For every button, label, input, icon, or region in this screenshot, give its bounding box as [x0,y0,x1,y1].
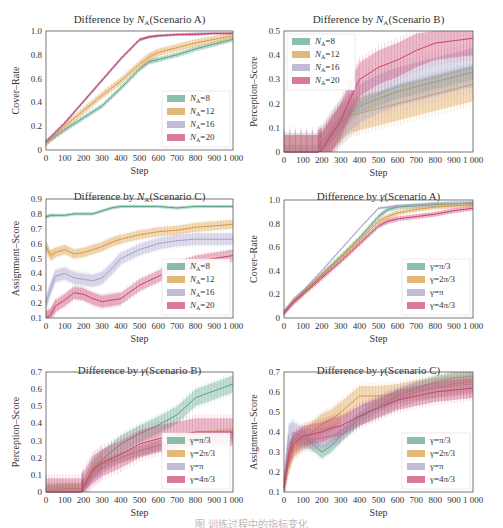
x-tick-label: 400 [353,155,367,165]
x-tick-label: 900 [447,495,461,505]
y-tick-label: 0.6 [269,387,281,397]
legend-swatch [167,302,185,309]
legend-swatch [407,463,425,470]
y-tick-label: 0.5 [269,407,281,417]
x-tick-label: 300 [95,321,109,331]
x-tick-label: 800 [428,321,442,331]
subplot-gamma-scenario-b-svg: Difference by γ(Scenario B)0100200300400… [10,364,244,518]
legend-swatch [167,108,185,115]
legend-swatch [407,276,425,283]
x-tick-label: 700 [410,155,424,165]
y-axis-label: Perception–Score [10,396,21,467]
x-tick-label: 800 [189,495,203,505]
x-tick-label: 200 [77,495,91,505]
x-tick-label: 100 [296,495,310,505]
y-tick-label: 0.2 [269,99,280,109]
legend-label: γ=π/3 [429,435,451,445]
y-tick-label: 0.3 [31,436,43,446]
y-tick-label: 0.2 [31,298,42,308]
x-tick-label: 1 000 [463,321,484,331]
y-tick-label: 0.3 [31,283,43,293]
x-tick-label: 600 [151,321,165,331]
legend-swatch [407,263,425,270]
y-tick-label: 0.4 [269,266,281,276]
legend: γ=π/3γ=2π/3γ=πγ=4π/3 [402,433,470,489]
y-tick-label: 0 [276,313,281,323]
x-tick-label: 300 [334,495,348,505]
legend-swatch [292,77,310,84]
x-axis-label: Step [131,165,149,176]
x-tick-label: 700 [410,495,424,505]
legend-label: NA=16 [189,119,215,130]
legend-label: γ=π [429,287,444,297]
x-tick-label: 1 000 [463,495,484,505]
legend: NA=8NA=12NA=16NA=20 [162,91,230,147]
legend-label: NA=20 [314,75,340,86]
x-tick-label: 100 [58,495,72,505]
legend-swatch [407,302,425,309]
x-tick-label: 400 [353,495,367,505]
y-tick-label: 0.9 [31,194,43,204]
legend-label: γ=π/3 [189,435,211,445]
y-tick-label: 0.1 [269,487,280,497]
x-tick-label: 400 [353,321,367,331]
legend-swatch [167,134,185,141]
chart-title: Difference by γ(Scenario B) [78,364,202,377]
x-tick-label: 1 000 [223,153,244,163]
y-tick-label: 0.6 [31,239,43,249]
legend-label: γ=4π/3 [429,474,456,484]
legend-label: NA=20 [189,132,215,143]
chart-title: Difference by NA(Scenario C) [74,190,206,204]
chart-title: Difference by γ(Scenario C) [317,364,441,377]
chart-title: Difference by γ(Scenario A) [317,190,441,203]
legend-swatch [167,450,185,457]
legend-swatch [407,437,425,444]
x-tick-label: 400 [114,321,128,331]
y-tick-label: 0.1 [31,470,42,480]
y-tick-label: 0.4 [31,97,43,107]
y-tick-label: 0.3 [269,74,281,84]
legend-label: γ=π [429,461,444,471]
x-tick-label: 100 [58,321,72,331]
x-tick-label: 0 [44,495,49,505]
x-tick-label: 600 [391,495,405,505]
y-tick-label: 1.0 [269,195,281,205]
x-tick-label: 100 [296,155,310,165]
legend-label: NA=12 [189,274,214,285]
x-tick-label: 900 [447,321,461,331]
x-tick-label: 1 000 [223,321,244,331]
legend-label: NA=16 [189,287,215,298]
x-axis-label: Step [370,167,388,178]
x-tick-label: 800 [428,155,442,165]
legend-swatch [407,450,425,457]
x-tick-label: 500 [372,495,386,505]
x-tick-label: 500 [133,153,147,163]
y-tick-label: 0.1 [31,313,42,323]
x-tick-label: 700 [170,495,184,505]
legend: NA=8NA=12NA=16NA=20 [162,259,230,315]
legend-swatch [292,51,310,58]
legend-label: NA=12 [189,106,214,117]
y-axis-label: Cover–Rate [248,235,259,283]
legend-swatch [167,276,185,283]
y-tick-label: 0.8 [31,50,43,60]
legend: NA=8NA=12NA=16NA=20 [287,34,355,90]
legend-label: NA=8 [189,93,210,104]
legend-swatch [167,95,185,102]
y-tick-label: 0.6 [31,384,43,394]
legend-swatch [167,476,185,483]
y-tick-label: 0.7 [31,224,43,234]
x-tick-label: 500 [372,155,386,165]
x-axis-label: Step [370,333,388,344]
legend-swatch [292,38,310,45]
y-tick-label: 0.7 [269,367,281,377]
y-tick-label: 0.8 [31,209,43,219]
x-tick-label: 300 [334,321,348,331]
y-tick-label: 0.5 [269,26,281,36]
chart-title: Difference by NA(Scenario A) [74,13,206,27]
legend-swatch [167,263,185,270]
subplot-gamma-scenario-a-svg: Difference by γ(Scenario A)0100200300400… [248,190,484,344]
legend-label: γ=4π/3 [429,300,456,310]
y-tick-label: 0.2 [31,453,42,463]
legend-swatch [167,289,185,296]
